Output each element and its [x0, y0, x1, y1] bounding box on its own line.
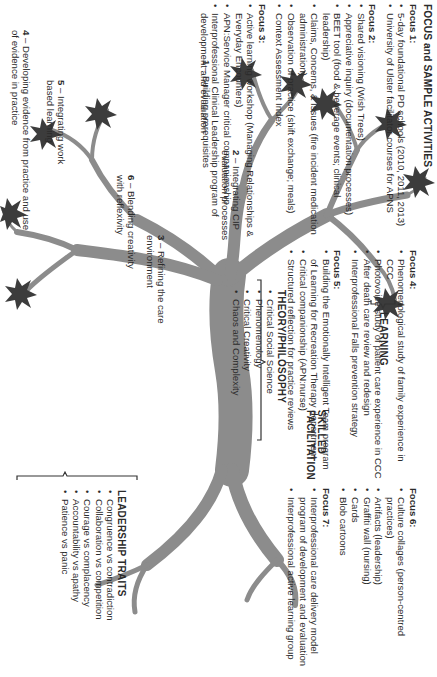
focus-2-item: Claims, Concerns, & Issues (fire inciden…: [297, 4, 320, 244]
leadership-item: Congruence vs contradiction: [105, 490, 116, 670]
focus-1-item: University of Ulster facilitator courses…: [384, 4, 396, 244]
focus-2-item: Appreciative inquiry (documentation proc…: [343, 4, 355, 244]
focus-5-item: Structured reflection for practice revie…: [285, 250, 297, 480]
focus-6-item: Culture collages (person-centred practic…: [384, 488, 407, 673]
focus-6-item: Cards: [349, 488, 361, 673]
leaf-icon: [85, 98, 117, 130]
focus-2-title: Focus 2:: [367, 4, 379, 244]
focus-panel: FOCUS and SAMPLE ACTIVITIES: [420, 4, 433, 304]
leadership-traits-block: LEADERSHIP TRAITS Congruence vs contradi…: [60, 490, 127, 670]
theory-item: Critical Creativity: [242, 290, 253, 450]
focus-2-item: BEET tool (food & beverage events; clini…: [320, 4, 343, 244]
leadership-item: Collaboration vs competition: [93, 490, 104, 670]
focus-1-title: Focus 1:: [407, 4, 419, 244]
theory-item: Chaos and Complexity: [231, 290, 242, 450]
branch-label-5: 5 – Integrating work based learning: [45, 80, 67, 190]
focus-6-item: Artifacts (leadership): [373, 488, 385, 673]
focus-column-3: Focus 6: Culture collages (person-centre…: [285, 488, 419, 673]
focus-2-item: Context Assessment Index: [274, 4, 286, 244]
skilled-facilitation-label: SKILLED FACILITATION: [305, 410, 327, 500]
focus-7-item: Interprofessional care delivery model pr…: [297, 488, 320, 673]
branch-label-1: 1 – Building prerequisites: [201, 60, 212, 210]
focus-2-item: Observation of practice (shift exchange;…: [285, 4, 297, 244]
focus-6-title: Focus 6:: [407, 488, 419, 673]
focus-4-item: After death care review and redesign: [361, 250, 373, 480]
focus-7-title: Focus 7:: [320, 488, 332, 673]
leadership-bracket: [17, 472, 137, 480]
focus-6-item: Graffiti wall (nursing): [361, 488, 373, 673]
focus-6-item: Blob cartoons: [338, 488, 350, 673]
focus-4-item: Interprofessional Falls prevention strat…: [349, 250, 361, 480]
leadership-item: Accountability vs apathy: [71, 490, 82, 670]
focus-5-title: Focus 5:: [332, 250, 344, 480]
branch-label-2: 2 – Integrating CIP evaluation processes: [220, 150, 242, 270]
leadership-traits-title: LEADERSHIP TRAITS: [116, 490, 127, 670]
focus-panel-title: FOCUS and SAMPLE ACTIVITIES: [421, 4, 433, 304]
focus-3-title: Focus 3:: [256, 4, 268, 244]
focus-2-item: Shared visioning (Wish Trees): [355, 4, 367, 244]
figure-frame: FOCUS and SAMPLE ACTIVITIES Focus 1: 5-d…: [0, 0, 437, 677]
theory-philosophy-block: THEORY/PHILOSOPHY Critical Social Scienc…: [231, 290, 287, 450]
theory-philosophy-title: THEORY/PHILOSOPHY: [276, 290, 287, 450]
focus-4-title: Focus 4:: [407, 250, 419, 480]
theory-item: Phenomenology: [253, 290, 264, 450]
leadership-item: Patience vs panic: [60, 490, 71, 670]
focus-1-item: 5-day foundational PD schools (2010, 201…: [396, 4, 408, 244]
leadership-item: Courage vs complacency: [82, 490, 93, 670]
branch-label-3: 3 – Refining the care environment: [145, 235, 167, 335]
focus-7-item: Interprofessional active learning group: [285, 488, 297, 673]
learning-label: LEARNING: [378, 312, 389, 366]
theory-item: Critical Social Science: [265, 290, 276, 450]
branch-label-6: 6 – Blending creativity with reflexivity: [115, 175, 137, 285]
rotated-figure-canvas: FOCUS and SAMPLE ACTIVITIES Focus 1: 5-d…: [0, 0, 437, 677]
branch-label-4: 4 – Developing evidence from practice an…: [10, 30, 32, 240]
